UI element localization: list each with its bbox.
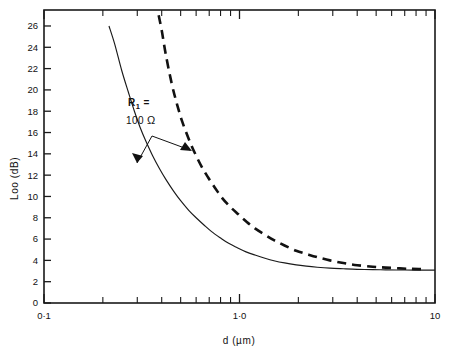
y-tick-label: 18 [27, 106, 38, 117]
y-axis-title: Loo (dB) [9, 157, 20, 200]
x-axis-ticks [44, 10, 435, 303]
x-tick-label: 1·0 [233, 310, 247, 321]
y-tick-label: 24 [27, 42, 38, 53]
x-axis-title: d (µm) [223, 335, 256, 346]
y-tick-label: 16 [27, 127, 38, 138]
y-tick-label: 20 [27, 84, 38, 95]
y-tick-label: 22 [27, 63, 38, 74]
y-axis-tick-labels: 02468101214161820222426 [27, 20, 38, 308]
figure-container: 02468101214161820222426 0·11·010 R1 = 10… [0, 0, 456, 352]
r1-equals-text: R1 = [128, 97, 150, 111]
y-tick-label: 6 [33, 233, 38, 244]
y-tick-label: 10 [27, 191, 38, 202]
x-tick-label: 0·1 [37, 310, 51, 321]
y-tick-label: 4 [33, 255, 38, 266]
y-tick-label: 26 [27, 20, 38, 31]
annotation-text-group: R1 = 100 Ω [126, 97, 156, 126]
y-axis-ticks [44, 26, 51, 303]
y-tick-label: 2 [33, 276, 38, 287]
x-axis-tick-labels: 0·11·010 [37, 310, 440, 321]
y-tick-label: 14 [27, 148, 38, 159]
y-tick-label: 8 [33, 212, 38, 223]
plot-frame [44, 10, 435, 303]
x-tick-label: 10 [430, 310, 441, 321]
annotation-leaders [132, 136, 192, 163]
y-tick-label: 0 [33, 297, 38, 308]
solid-curve [109, 26, 435, 270]
y-tick-label: 12 [27, 170, 38, 181]
dashed-curve [159, 15, 422, 269]
r1-value-text: 100 Ω [126, 114, 156, 126]
chart-canvas: 02468101214161820222426 0·11·010 R1 = 10… [0, 0, 456, 352]
